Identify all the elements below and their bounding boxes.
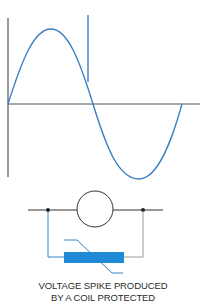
diagram-caption: VOLTAGE SPIKE PRODUCED BY A COIL PROTECT… [0, 280, 206, 304]
gray-branch-wire [124, 211, 143, 257]
coil-symbol [77, 191, 113, 227]
diagram-canvas [0, 0, 206, 305]
caption-line-2: BY A COIL PROTECTED [0, 292, 206, 304]
caption-line-1: VOLTAGE SPIKE PRODUCED [0, 280, 206, 292]
blue-branch-wire [48, 211, 64, 257]
varistor-body [64, 252, 124, 263]
